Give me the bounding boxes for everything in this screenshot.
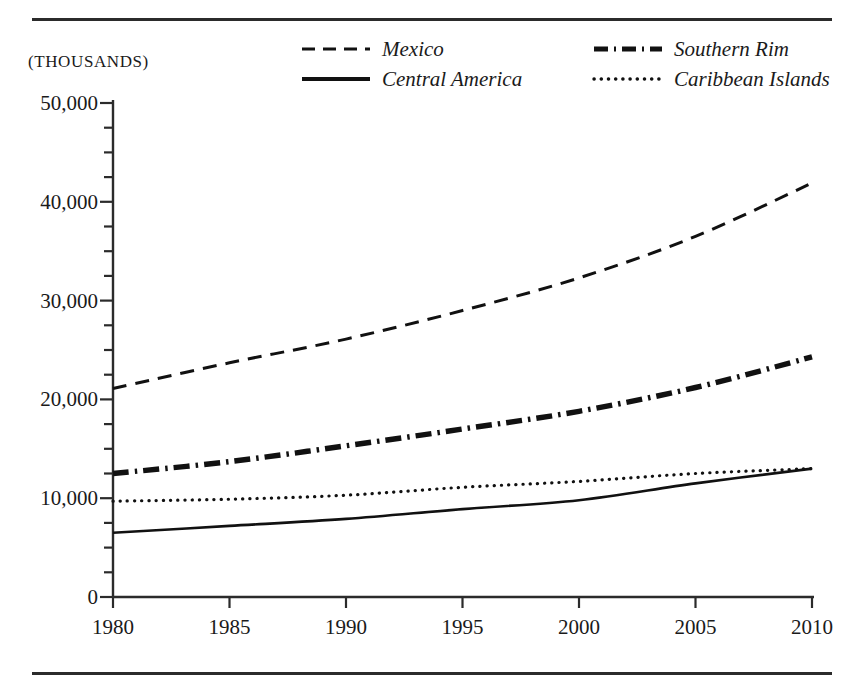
legend-item-southern-rim: Southern Rim [592, 37, 840, 62]
series-line-caribbean-islands [113, 469, 812, 502]
y-tick-label: 30,000 [0, 288, 98, 313]
x-tick-label: 1980 [92, 615, 134, 640]
y-tick-label: 40,000 [0, 189, 98, 214]
y-axis-units-caption: (THOUSANDS) [28, 52, 149, 72]
legend-label-caribbean-islands: Caribbean Islands [674, 67, 830, 92]
x-tick-label: 2005 [675, 615, 717, 640]
legend-label-central-america: Central America [382, 67, 522, 92]
legend-label-mexico: Mexico [382, 37, 444, 62]
solid-line-swatch [300, 72, 372, 86]
legend-item-mexico: Mexico [300, 37, 592, 62]
x-tick-label: 2010 [791, 615, 833, 640]
chart-legend: Mexico Southern Rim Central America Cari… [300, 34, 840, 94]
axis-lines [113, 100, 814, 597]
dashed-line-swatch [300, 42, 372, 56]
dash-dot-line-swatch [592, 42, 664, 56]
legend-item-central-america: Central America [300, 67, 592, 92]
y-axis-ticks [100, 103, 113, 597]
legend-item-caribbean-islands: Caribbean Islands [592, 67, 840, 92]
y-tick-label: 20,000 [0, 387, 98, 412]
x-tick-label: 1995 [442, 615, 484, 640]
series-paths [113, 183, 812, 533]
series-line-mexico [113, 183, 812, 389]
x-axis-ticks [113, 597, 812, 608]
x-tick-label: 2000 [558, 615, 600, 640]
x-tick-label: 1985 [209, 615, 251, 640]
figure-page: (THOUSANDS) Mexico Southern Rim Central … [0, 0, 863, 697]
y-tick-label: 0 [0, 585, 98, 610]
y-tick-label: 50,000 [0, 91, 98, 116]
dotted-line-swatch [592, 72, 664, 86]
y-tick-label: 10,000 [0, 486, 98, 511]
x-tick-label: 1990 [325, 615, 367, 640]
legend-label-southern-rim: Southern Rim [674, 37, 789, 62]
series-line-southern-rim [113, 357, 812, 474]
bottom-rule [32, 672, 832, 675]
top-rule [32, 18, 832, 21]
line-chart-plot [0, 0, 863, 697]
series-line-central-america [113, 469, 812, 533]
